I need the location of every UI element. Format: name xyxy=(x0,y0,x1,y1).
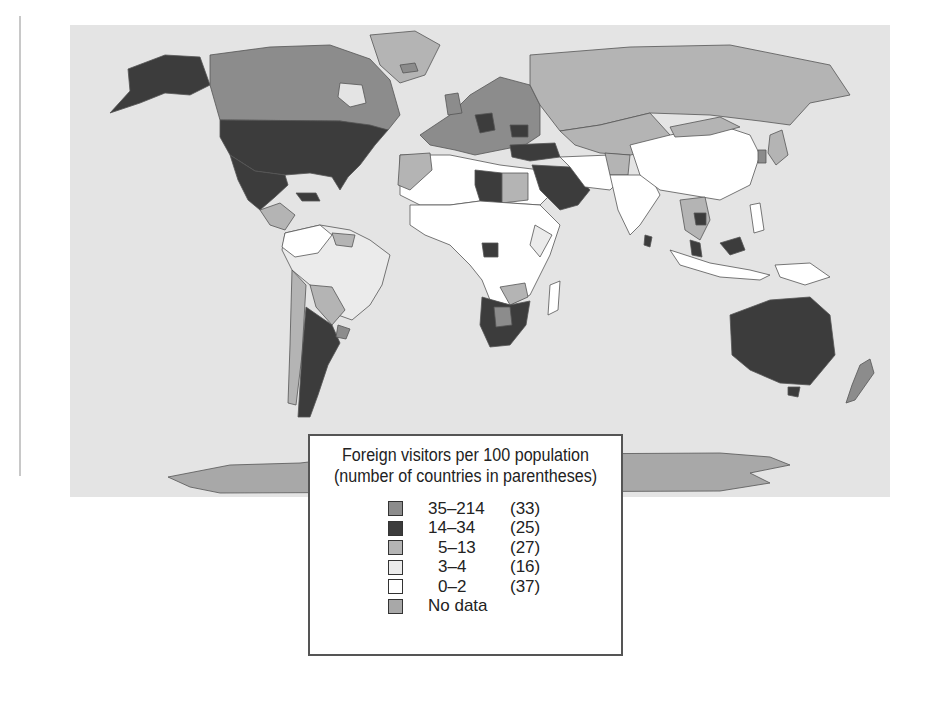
region-caribbean xyxy=(296,193,320,201)
legend-item: 14–34 (25) xyxy=(388,519,540,539)
region-libya xyxy=(475,170,502,203)
legend-count: (37) xyxy=(510,577,540,597)
map-legend: Foreign visitors per 100 population (num… xyxy=(308,434,623,656)
region-central-america xyxy=(260,203,295,230)
region-russia xyxy=(530,45,850,131)
legend-title-line1: Foreign visitors per 100 population xyxy=(322,445,608,466)
legend-count: (25) xyxy=(510,518,540,538)
legend-swatch-icon xyxy=(388,560,403,575)
legend-range: 5–13 xyxy=(428,538,510,558)
legend-swatch-icon xyxy=(388,540,403,555)
legend-swatch-icon xyxy=(388,579,403,594)
legend-items: 35–214 (33) 14–34 (25) 5–13 (27) 3–4 (16… xyxy=(388,499,540,616)
legend-count: (16) xyxy=(510,557,540,577)
legend-item: 35–214 (33) xyxy=(388,499,540,519)
region-turkey xyxy=(510,143,560,161)
region-new-zealand xyxy=(846,359,874,403)
legend-item: No data xyxy=(388,597,540,617)
legend-range: 14–34 xyxy=(428,518,510,538)
legend-count: (27) xyxy=(510,538,540,558)
legend-range: 0–2 xyxy=(428,577,510,597)
legend-swatch-icon xyxy=(388,599,403,614)
legend-item: 3–4 (16) xyxy=(388,558,540,578)
legend-swatch-icon xyxy=(388,501,403,516)
region-canada xyxy=(210,45,400,130)
legend-title-line2: (number of countries in parentheses) xyxy=(322,466,608,487)
region-indonesia xyxy=(670,250,770,280)
page-margin-rule xyxy=(19,16,21,476)
legend-swatch-icon xyxy=(388,521,403,536)
legend-item: 5–13 (27) xyxy=(388,538,540,558)
legend-count: (33) xyxy=(510,499,540,519)
region-alaska xyxy=(110,55,210,113)
legend-range: 3–4 xyxy=(428,557,510,577)
legend-title: Foreign visitors per 100 population (num… xyxy=(322,445,608,487)
region-australia xyxy=(730,297,835,385)
legend-range: No data xyxy=(428,596,510,616)
legend-range: 35–214 xyxy=(428,499,510,519)
world-map-svg xyxy=(70,25,890,497)
legend-item: 0–2 (37) xyxy=(388,577,540,597)
world-map xyxy=(70,25,890,497)
